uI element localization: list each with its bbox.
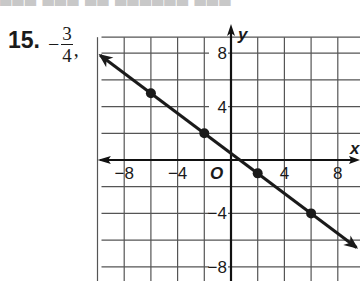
x-tick-label: −8 xyxy=(115,164,134,183)
coordinate-plane-graph: yxO−8−44884−4−8 xyxy=(0,0,360,281)
origin-label: O xyxy=(210,164,223,183)
data-point xyxy=(199,128,209,138)
x-tick-label: 8 xyxy=(333,164,342,183)
data-point xyxy=(306,208,316,218)
y-tick-label: −4 xyxy=(208,204,227,223)
x-tick-label: −4 xyxy=(168,164,187,183)
plotted-line xyxy=(100,55,356,247)
x-axis-label: x xyxy=(349,139,360,158)
y-tick-label: −8 xyxy=(208,258,227,277)
y-axis-label: y xyxy=(237,25,249,44)
y-tick-label: 8 xyxy=(218,44,227,63)
y-tick-label: 4 xyxy=(218,98,227,117)
data-point xyxy=(253,168,263,178)
x-tick-label: 4 xyxy=(280,164,289,183)
data-point xyxy=(146,88,156,98)
